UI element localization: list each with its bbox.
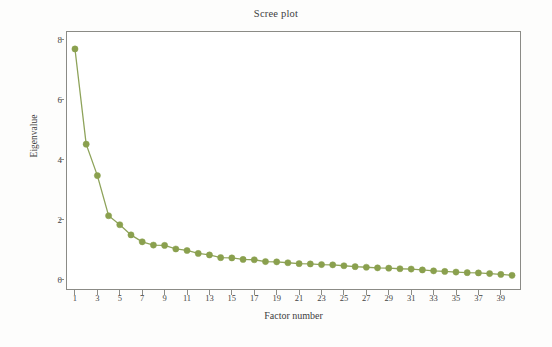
data-point-marker [195, 250, 201, 256]
scree-plot-figure: Scree plot Eigenvalue 02468 135791113151… [0, 0, 552, 347]
data-point-marker [419, 267, 425, 273]
x-tick-label: 35 [446, 293, 466, 303]
chart-title: Scree plot [0, 8, 552, 19]
data-point-marker [352, 264, 358, 270]
data-point-marker [83, 141, 89, 147]
data-point-marker [318, 261, 324, 267]
y-tick-mark [59, 99, 64, 100]
data-point-marker [105, 213, 111, 219]
x-tick-label: 5 [110, 293, 130, 303]
data-point-marker [475, 270, 481, 276]
x-tick-label: 27 [356, 293, 376, 303]
data-point-marker [150, 242, 156, 248]
data-point-marker [173, 246, 179, 252]
data-point-marker [408, 266, 414, 272]
x-tick-label: 7 [132, 293, 152, 303]
data-point-marker [94, 173, 100, 179]
x-tick-label: 21 [289, 293, 309, 303]
data-point-marker [184, 247, 190, 253]
data-point-marker [72, 46, 78, 52]
data-point-marker [341, 263, 347, 269]
x-tick-label: 29 [379, 293, 399, 303]
x-tick-label: 19 [267, 293, 287, 303]
x-tick-label: 13 [199, 293, 219, 303]
data-point-marker [442, 268, 448, 274]
data-point-marker [296, 261, 302, 267]
x-tick-label: 31 [401, 293, 421, 303]
scree-plot-series [66, 31, 521, 290]
x-tick-label: 33 [424, 293, 444, 303]
data-point-marker [128, 232, 134, 238]
data-point-marker [509, 272, 515, 278]
data-point-marker [218, 255, 224, 261]
data-point-marker [139, 239, 145, 245]
x-tick-label: 39 [491, 293, 511, 303]
data-point-marker [430, 268, 436, 274]
x-tick-label: 3 [87, 293, 107, 303]
data-point-marker [240, 256, 246, 262]
data-point-marker [453, 269, 459, 275]
y-tick-mark [59, 39, 64, 40]
x-tick-label: 37 [468, 293, 488, 303]
x-tick-label: 17 [244, 293, 264, 303]
y-axis-tick-labels: 02468 [34, 0, 62, 347]
eigenvalue-series-group [72, 46, 515, 279]
data-point-marker [307, 261, 313, 267]
data-point-marker [487, 270, 493, 276]
data-point-marker [464, 270, 470, 276]
data-point-marker [274, 259, 280, 265]
x-tick-label: 25 [334, 293, 354, 303]
data-point-marker [498, 271, 504, 277]
data-point-marker [330, 262, 336, 268]
data-point-marker [229, 255, 235, 261]
x-tick-label: 11 [177, 293, 197, 303]
y-tick-mark [59, 279, 64, 280]
data-point-marker [206, 252, 212, 258]
data-point-marker [285, 260, 291, 266]
x-tick-label: 23 [312, 293, 332, 303]
data-point-marker [162, 242, 168, 248]
x-tick-label: 15 [222, 293, 242, 303]
x-tick-label: 9 [155, 293, 175, 303]
x-axis-title: Factor number [66, 310, 521, 321]
y-tick-mark [59, 219, 64, 220]
data-point-marker [386, 265, 392, 271]
data-point-marker [397, 266, 403, 272]
data-point-marker [251, 257, 257, 263]
data-point-marker [262, 258, 268, 264]
data-point-marker [117, 222, 123, 228]
data-point-marker [374, 265, 380, 271]
y-tick-mark [59, 159, 64, 160]
data-point-marker [363, 264, 369, 270]
x-tick-label: 1 [65, 293, 85, 303]
